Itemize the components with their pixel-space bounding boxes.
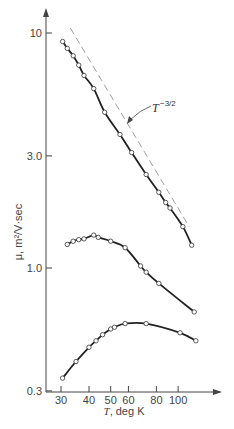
x-ticks: 3040506080100 (55, 386, 187, 406)
data-point-marker (82, 237, 86, 241)
data-point-marker (181, 224, 185, 228)
data-point-marker (157, 190, 161, 194)
t-power-annotation: T −3/2 (127, 99, 176, 124)
data-point-marker (163, 200, 167, 204)
arrow-head-icon (127, 116, 133, 124)
x-tick-label: 80 (150, 394, 162, 406)
data-point-marker (194, 339, 198, 343)
series-line-3 (70, 28, 189, 227)
data-point-marker (123, 321, 127, 325)
y-ticks: 0.31.03.010 (27, 27, 52, 397)
data-point-marker (118, 132, 122, 136)
data-point-marker (94, 339, 98, 343)
annotation-base: T (152, 101, 160, 115)
data-point-marker (65, 46, 69, 50)
data-point-marker (129, 150, 133, 154)
y-tick-label: 1.0 (27, 262, 42, 274)
series-line-1 (67, 235, 194, 312)
data-point-marker (65, 242, 69, 246)
y-axis-title: μ, m²/V·sec (12, 203, 24, 260)
data-point-marker (144, 172, 148, 176)
data-point-marker (112, 325, 116, 329)
x-axis-arrow-icon (213, 389, 222, 395)
y-axis-arrow-icon (43, 8, 49, 17)
data-point-marker (108, 239, 112, 243)
x-tick-label: 30 (55, 394, 67, 406)
data-point-marker (71, 54, 75, 58)
x-tick-label: 100 (169, 394, 187, 406)
series-line-2 (63, 323, 196, 378)
y-tick-label: 3.0 (27, 150, 42, 162)
mobility-chart: 0.31.03.010 3040506080100 T −3/2 μ, m²/V… (0, 0, 234, 429)
data-point-marker (157, 281, 161, 285)
y-tick-label: 0.3 (27, 385, 42, 397)
data-point-marker (60, 376, 64, 380)
data-point-marker (77, 63, 81, 67)
data-point-marker (92, 233, 96, 237)
data-point-marker (123, 246, 127, 250)
annotation-exponent: −3/2 (160, 99, 176, 108)
data-point-marker (144, 270, 148, 274)
data-point-marker (168, 206, 172, 210)
data-point-marker (74, 359, 78, 363)
x-axis-title-rest: , deg K (110, 405, 146, 417)
series-line-0 (63, 42, 192, 246)
data-point-marker (71, 239, 75, 243)
x-axis-title: T, deg K (104, 405, 146, 417)
data-point-marker (82, 73, 86, 77)
data-point-marker (96, 235, 100, 239)
data-point-marker (102, 110, 106, 114)
data-point-marker (138, 264, 142, 268)
data-point-marker (178, 331, 182, 335)
data-point-marker (87, 345, 91, 349)
y-tick-label: 10 (30, 27, 42, 39)
data-point-marker (92, 86, 96, 90)
data-series (60, 28, 198, 380)
data-point-marker (100, 333, 104, 337)
annotation-arrow (130, 106, 151, 120)
data-point-marker (144, 321, 148, 325)
data-point-marker (77, 237, 81, 241)
x-tick-label: 40 (83, 394, 95, 406)
data-point-marker (60, 39, 64, 43)
data-point-marker (190, 243, 194, 247)
data-point-marker (192, 310, 196, 314)
